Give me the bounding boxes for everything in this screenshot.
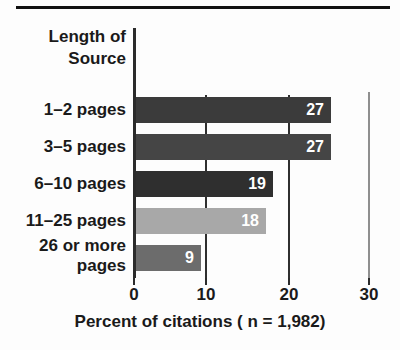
bar-11-25-pages: 18 bbox=[136, 208, 266, 234]
xtick-mark-10 bbox=[205, 278, 207, 285]
bar-value-11-25-pages: 18 bbox=[241, 211, 259, 231]
xtick-mark-20 bbox=[288, 278, 290, 285]
x-axis-title: Percent of citations ( n = 1,982) bbox=[0, 312, 400, 332]
bar-value-6-10-pages: 19 bbox=[248, 174, 266, 194]
xtick-label-10: 10 bbox=[186, 285, 226, 305]
bar-26-or-more-pages: 9 bbox=[136, 245, 201, 271]
xtick-label-30: 30 bbox=[349, 285, 389, 305]
category-label-26-or-more-pages: 26 or more pages bbox=[0, 236, 126, 276]
plot-area: Length of Source 1–2 pages 27 3–5 pages … bbox=[0, 0, 400, 350]
category-label-6-10-pages: 6–10 pages bbox=[0, 174, 126, 194]
category-label-3-5-pages: 3–5 pages bbox=[0, 137, 126, 157]
bar-row-11-25-pages: 11–25 pages 18 bbox=[0, 208, 400, 234]
category-label-11-25-pages: 11–25 pages bbox=[0, 211, 126, 231]
bar-value-3-5-pages: 27 bbox=[306, 137, 324, 157]
bar-6-10-pages: 19 bbox=[136, 171, 273, 197]
category-label-1-2-pages: 1–2 pages bbox=[0, 100, 126, 120]
xtick-mark-30 bbox=[368, 278, 370, 285]
bar-3-5-pages: 27 bbox=[136, 134, 331, 160]
xtick-label-20: 20 bbox=[269, 285, 309, 305]
bar-row-3-5-pages: 3–5 pages 27 bbox=[0, 134, 400, 160]
xtick-label-0: 0 bbox=[114, 285, 154, 305]
y-axis-title: Length of Source bbox=[8, 26, 126, 70]
bar-row-6-10-pages: 6–10 pages 19 bbox=[0, 171, 400, 197]
bar-1-2-pages: 27 bbox=[136, 97, 331, 123]
bar-row-1-2-pages: 1–2 pages 27 bbox=[0, 97, 400, 123]
bar-value-1-2-pages: 27 bbox=[306, 100, 324, 120]
bar-chart-figure: Length of Source 1–2 pages 27 3–5 pages … bbox=[0, 0, 400, 350]
xtick-mark-0 bbox=[133, 278, 135, 285]
bar-value-26-or-more-pages: 9 bbox=[185, 248, 194, 268]
bar-row-26-or-more-pages: 26 or more pages 9 bbox=[0, 245, 400, 271]
